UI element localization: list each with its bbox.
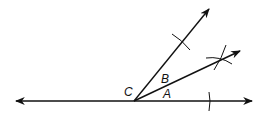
bisector-ray [134,51,240,101]
label-angle-b: B [161,72,169,86]
label-angle-a: A [162,87,171,101]
label-vertex-c: C [124,85,133,99]
angle-bisector-diagram: C B A [0,0,265,116]
upper-ray [134,9,209,101]
